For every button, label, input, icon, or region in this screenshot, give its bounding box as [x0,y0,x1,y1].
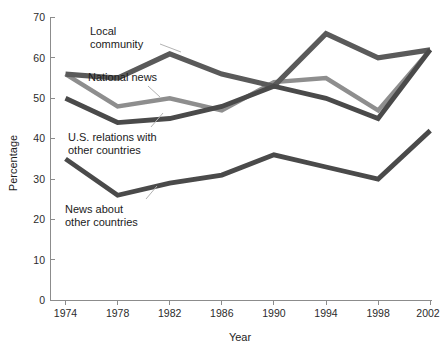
x-tick-label-1986: 1986 [210,307,234,319]
leader-line-local-community [160,44,181,52]
annotation-local-community: Local community [90,25,144,50]
y-tick-label-40: 40 [33,132,45,144]
y-axis-title: Percentage [7,135,19,191]
x-tick-label-1978: 1978 [106,307,130,319]
annotation-news-other-line1: News about [65,203,123,215]
y-tick-label-20: 20 [33,213,45,225]
annotation-national-news: National news [88,71,158,83]
x-axis-title: Year [229,331,252,343]
x-tick-label-1994: 1994 [314,307,338,319]
annotation-news-other-countries: News about other countries [65,203,138,228]
y-tick-label-10: 10 [33,254,45,266]
annotation-us-relations-line1: U.S. relations with [68,131,157,143]
annotation-us-relations: U.S. relations with other countries [68,131,157,156]
chart-canvas: 70 60 50 40 30 20 10 0 1974 1978 1982 19… [0,0,440,348]
x-tick-label-1998: 1998 [366,307,390,319]
line-chart: 70 60 50 40 30 20 10 0 1974 1978 1982 19… [0,0,440,348]
y-tick-label-70: 70 [33,11,45,23]
y-tick-label-0: 0 [39,294,45,306]
x-tick-label-1982: 1982 [158,307,182,319]
y-axis [51,17,56,301]
x-axis [51,301,433,306]
annotation-news-other-line2: other countries [65,216,138,228]
leader-line-national-news [148,86,160,97]
x-tick-label-1974: 1974 [54,307,78,319]
y-tick-label-50: 50 [33,92,45,104]
annotation-local-community-line1: Local [90,25,116,37]
series-line-us-relations [66,50,431,123]
annotation-national-news-line1: National news [88,71,158,83]
x-tick-label-2002: 2002 [416,307,440,319]
annotation-local-community-line2: community [90,38,144,50]
y-tick-label-30: 30 [33,173,45,185]
y-tick-label-60: 60 [33,52,45,64]
x-tick-label-1990: 1990 [262,307,286,319]
annotation-us-relations-line2: other countries [68,144,141,156]
